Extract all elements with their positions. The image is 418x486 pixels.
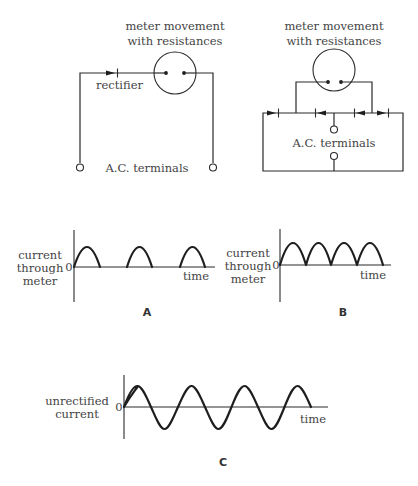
ac-terminals-label: A.C. terminals <box>104 161 188 175</box>
graph-b-ylabel-line3: meter <box>231 272 266 286</box>
graph-b-zero-label: 0 <box>272 258 279 272</box>
meter-label-line2: with resistances <box>127 34 222 48</box>
graph-b-panel-label: B <box>339 306 347 319</box>
graph-b-xlabel: time <box>360 268 386 282</box>
graph-c-xlabel: time <box>300 412 326 426</box>
graph-a-xlabel: time <box>183 269 209 283</box>
graph-b-ylabel-line1: current <box>226 246 270 260</box>
graph-a-panel-label: A <box>143 306 152 319</box>
bridge-circuit: meter movement with resistances <box>263 19 403 171</box>
right-wire <box>196 73 213 163</box>
graph-b-ylabel-line2: through <box>225 259 272 273</box>
bridge-meter-movement-icon <box>313 49 355 91</box>
meter-lead-to-bridge-right <box>341 82 372 113</box>
bridge-meter-label-line1: meter movement <box>284 19 384 33</box>
bridge-diode-3-icon <box>355 109 366 118</box>
bridge-ac-terminal-top-icon <box>331 126 338 133</box>
graph-b-pulses <box>280 243 383 265</box>
bridge-ac-terminal-bottom-icon <box>331 153 338 160</box>
graph-c: unrectified current 0 time C <box>45 375 328 469</box>
half-wave-circuit: meter movement with resistances rectifie… <box>77 19 225 175</box>
graph-a-ylabel-line1: current <box>18 248 62 262</box>
graph-a-zero-label: 0 <box>65 260 72 274</box>
bridge-diode-2-icon <box>316 109 327 118</box>
graph-c-zero-label: 0 <box>115 400 122 414</box>
meter-label-line1: meter movement <box>125 19 225 33</box>
graph-a-pulse-2 <box>127 247 152 267</box>
graph-b: current through meter 0 time B <box>225 229 391 319</box>
rectifier-meter-figure: meter movement with resistances rectifie… <box>0 0 418 486</box>
meter-lead-to-bridge-left <box>296 82 328 113</box>
graph-a-pulse-3 <box>180 247 205 267</box>
ac-terminal-right-icon <box>210 164 217 171</box>
graph-c-panel-label: C <box>219 456 227 469</box>
graph-a-pulse-1 <box>74 247 100 267</box>
graph-c-ylabel-line1: unrectified <box>45 394 109 408</box>
graph-c-ylabel-line2: current <box>55 407 99 421</box>
bridge-ac-terminals-label: A.C. terminals <box>291 136 375 150</box>
graph-a-ylabel-line3: meter <box>23 274 58 288</box>
rectifier-label: rectifier <box>96 78 144 92</box>
bridge-meter-label-line2: with resistances <box>286 34 381 48</box>
ac-terminal-left-icon <box>77 164 84 171</box>
graph-a: current through meter 0 time A <box>17 230 215 319</box>
graph-a-ylabel-line2: through <box>17 261 64 275</box>
